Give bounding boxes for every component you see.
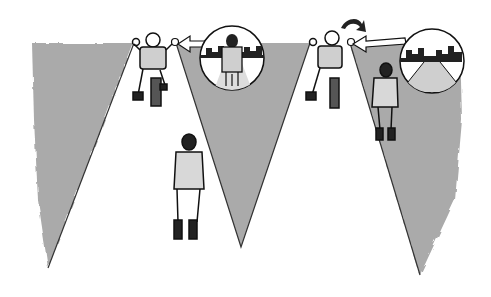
pedestrian-middle [174,134,204,239]
rider-left [133,33,173,106]
inset-view-empty-road [400,29,464,93]
rider-right [306,31,342,108]
vision-cone-left [32,43,134,268]
illustration [0,0,491,297]
mirror-icon [172,39,179,46]
head-turn-arrow-icon [341,19,366,32]
